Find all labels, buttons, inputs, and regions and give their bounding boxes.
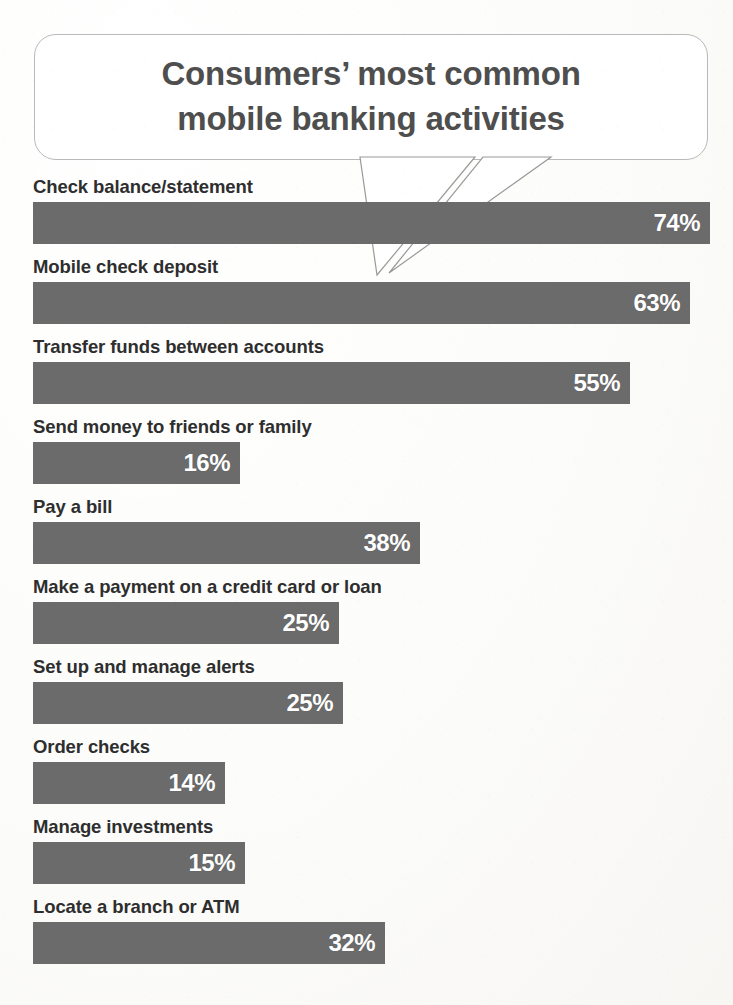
bar-wrapper: 25% bbox=[33, 682, 343, 724]
bar: 63% bbox=[33, 282, 690, 324]
bar-value-label: 55% bbox=[573, 371, 630, 395]
bar: 15% bbox=[33, 842, 245, 884]
bar-value-label: 14% bbox=[168, 771, 225, 795]
bar-category-label: Manage investments bbox=[33, 816, 213, 838]
bar: 32% bbox=[33, 922, 385, 964]
chart-row: Send money to friends or family16% bbox=[0, 416, 733, 496]
bar-category-label: Check balance/statement bbox=[33, 176, 253, 198]
chart-row: Order checks14% bbox=[0, 736, 733, 816]
title-callout-bubble: Consumers’ most common mobile banking ac… bbox=[34, 34, 708, 160]
bar-category-label: Make a payment on a credit card or loan bbox=[33, 576, 382, 598]
bar-value-label: 74% bbox=[653, 211, 710, 235]
bar-value-label: 16% bbox=[183, 451, 240, 475]
bar-wrapper: 74% bbox=[33, 202, 710, 244]
bar: 38% bbox=[33, 522, 420, 564]
chart-row: Locate a branch or ATM32% bbox=[0, 896, 733, 976]
bar: 16% bbox=[33, 442, 240, 484]
bar-value-label: 32% bbox=[328, 931, 385, 955]
chart-row: Set up and manage alerts25% bbox=[0, 656, 733, 736]
bar-category-label: Locate a branch or ATM bbox=[33, 896, 239, 918]
chart-row: Check balance/statement74% bbox=[0, 176, 733, 256]
bar-category-label: Pay a bill bbox=[33, 496, 112, 518]
bar-wrapper: 63% bbox=[33, 282, 690, 324]
bar-value-label: 25% bbox=[286, 691, 343, 715]
bar-wrapper: 14% bbox=[33, 762, 225, 804]
bar-category-label: Send money to friends or family bbox=[33, 416, 312, 438]
bar-wrapper: 25% bbox=[33, 602, 339, 644]
bar-chart: Check balance/statement74%Mobile check d… bbox=[0, 176, 733, 976]
page-title: Consumers’ most common mobile banking ac… bbox=[35, 51, 707, 141]
bar-wrapper: 55% bbox=[33, 362, 630, 404]
chart-page: Consumers’ most common mobile banking ac… bbox=[0, 0, 733, 1005]
bar-wrapper: 15% bbox=[33, 842, 245, 884]
bar-value-label: 38% bbox=[363, 531, 420, 555]
bar-wrapper: 38% bbox=[33, 522, 420, 564]
chart-row: Pay a bill38% bbox=[0, 496, 733, 576]
chart-row: Mobile check deposit63% bbox=[0, 256, 733, 336]
bar-wrapper: 16% bbox=[33, 442, 240, 484]
bar: 74% bbox=[33, 202, 710, 244]
bar-category-label: Order checks bbox=[33, 736, 150, 758]
bar: 14% bbox=[33, 762, 225, 804]
bar-wrapper: 32% bbox=[33, 922, 385, 964]
chart-row: Transfer funds between accounts55% bbox=[0, 336, 733, 416]
bar: 25% bbox=[33, 682, 343, 724]
chart-row: Make a payment on a credit card or loan2… bbox=[0, 576, 733, 656]
bar-category-label: Set up and manage alerts bbox=[33, 656, 255, 678]
bar-value-label: 63% bbox=[633, 291, 690, 315]
bar: 25% bbox=[33, 602, 339, 644]
bar-value-label: 25% bbox=[282, 611, 339, 635]
chart-row: Manage investments15% bbox=[0, 816, 733, 896]
bar-category-label: Transfer funds between accounts bbox=[33, 336, 324, 358]
bar-value-label: 15% bbox=[188, 851, 245, 875]
bar-category-label: Mobile check deposit bbox=[33, 256, 218, 278]
bar: 55% bbox=[33, 362, 630, 404]
